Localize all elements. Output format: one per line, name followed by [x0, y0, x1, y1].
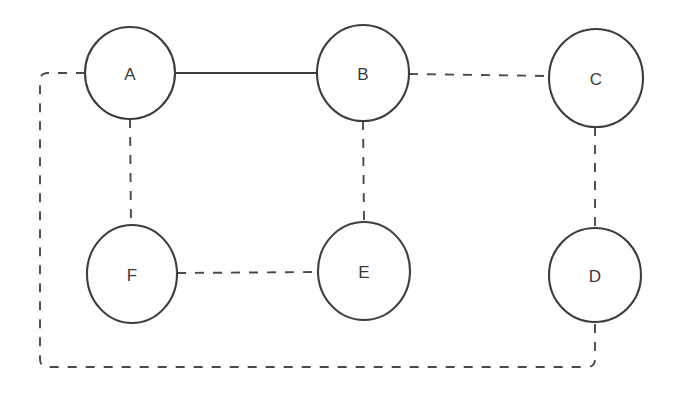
node-layer: A B C D E F — [85, 25, 643, 323]
node-f[interactable]: F — [87, 225, 177, 323]
node-c[interactable]: C — [549, 29, 643, 127]
node-d-label: D — [589, 267, 602, 286]
node-b[interactable]: B — [317, 25, 409, 121]
edge-b-c-dashed — [409, 74, 549, 76]
node-e[interactable]: E — [318, 222, 410, 320]
edge-f-e-dashed — [177, 272, 318, 273]
graph-canvas: A B C D E F — [0, 0, 682, 396]
node-a[interactable]: A — [85, 27, 175, 119]
edge-a-f-dashed — [130, 119, 131, 225]
node-a-label: A — [124, 65, 136, 84]
node-b-label: B — [357, 65, 369, 84]
node-e-label: E — [358, 263, 370, 282]
node-c-label: C — [590, 70, 603, 89]
edge-b-e-dashed — [363, 121, 364, 222]
node-f-label: F — [127, 266, 138, 285]
node-d[interactable]: D — [549, 228, 641, 322]
graph-diagram: A B C D E F — [0, 0, 682, 396]
